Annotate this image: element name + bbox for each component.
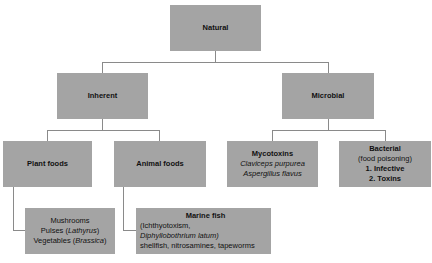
- text: Pulses (: [41, 226, 68, 235]
- bacterial-item: 2. Toxins: [369, 174, 401, 184]
- connector-to-mycotoxins: [272, 130, 273, 141]
- node-plant-examples: Mushrooms Pulses (Lathyrus) Vegetables (…: [25, 208, 115, 254]
- node-bacterial-label: Bacterial: [369, 144, 401, 154]
- genus-name: Brassica: [75, 236, 104, 245]
- text: Vegetables (: [34, 236, 76, 245]
- node-plant-foods: Plant foods: [3, 141, 92, 187]
- node-mycotoxins: Mycotoxins Claviceps purpurea Aspergillu…: [227, 141, 318, 187]
- node-microbial: Microbial: [282, 73, 374, 119]
- connector-inherent-down: [102, 119, 103, 130]
- node-plant-foods-label: Plant foods: [27, 159, 68, 169]
- node-mycotoxins-label: Mycotoxins: [252, 149, 293, 159]
- plant-example-pulses: Pulses (Lathyrus): [41, 226, 99, 236]
- connector-plant-down: [13, 187, 14, 231]
- mycotoxin-item: Aspergillus flavus: [243, 169, 301, 179]
- plant-example-mushrooms: Mushrooms: [50, 216, 89, 226]
- connector-inherent-bar: [47, 130, 160, 131]
- connector-microbial-down: [328, 119, 329, 130]
- connector-level1-bar: [102, 62, 329, 63]
- text: ): [97, 226, 100, 235]
- node-animal-foods-label: Animal foods: [136, 159, 184, 169]
- connector-natural-down: [215, 51, 216, 62]
- node-natural: Natural: [170, 5, 261, 51]
- plant-example-vegetables: Vegetables (Brassica): [34, 236, 107, 246]
- text: ): [104, 236, 107, 245]
- connector-plant-to-examples: [13, 230, 25, 231]
- node-animal-foods: Animal foods: [114, 141, 206, 187]
- node-microbial-label: Microbial: [312, 91, 345, 101]
- node-inherent-label: Inherent: [88, 91, 118, 101]
- connector-animal-to-examples: [123, 230, 136, 231]
- animal-example-line: shellfish, nitrosamines, tapeworms: [140, 241, 255, 251]
- connector-to-animal-foods: [159, 130, 160, 141]
- node-bacterial-sublabel: (food poisoning): [358, 154, 412, 164]
- animal-example-line: (Ichthyotoxism,: [140, 221, 190, 231]
- node-marine-fish-label: Marine fish: [186, 211, 226, 221]
- connector-to-plant-foods: [47, 130, 48, 141]
- node-natural-label: Natural: [203, 23, 229, 33]
- connector-to-microbial: [328, 62, 329, 73]
- mycotoxin-item: Claviceps purpurea: [240, 159, 305, 169]
- connector-to-inherent: [102, 62, 103, 73]
- connector-animal-down: [123, 187, 124, 231]
- genus-name: Lathyrus: [68, 226, 97, 235]
- animal-example-line: Diphyllobothrium latum): [140, 231, 219, 241]
- bacterial-item: 1. Infective: [366, 164, 405, 174]
- connector-microbial-bar: [272, 130, 386, 131]
- node-animal-examples: Marine fish (Ichthyotoxism, Diphylloboth…: [136, 208, 271, 254]
- node-inherent: Inherent: [57, 73, 148, 119]
- connector-to-bacterial: [385, 130, 386, 141]
- node-bacterial: Bacterial (food poisoning) 1. Infective …: [339, 141, 431, 187]
